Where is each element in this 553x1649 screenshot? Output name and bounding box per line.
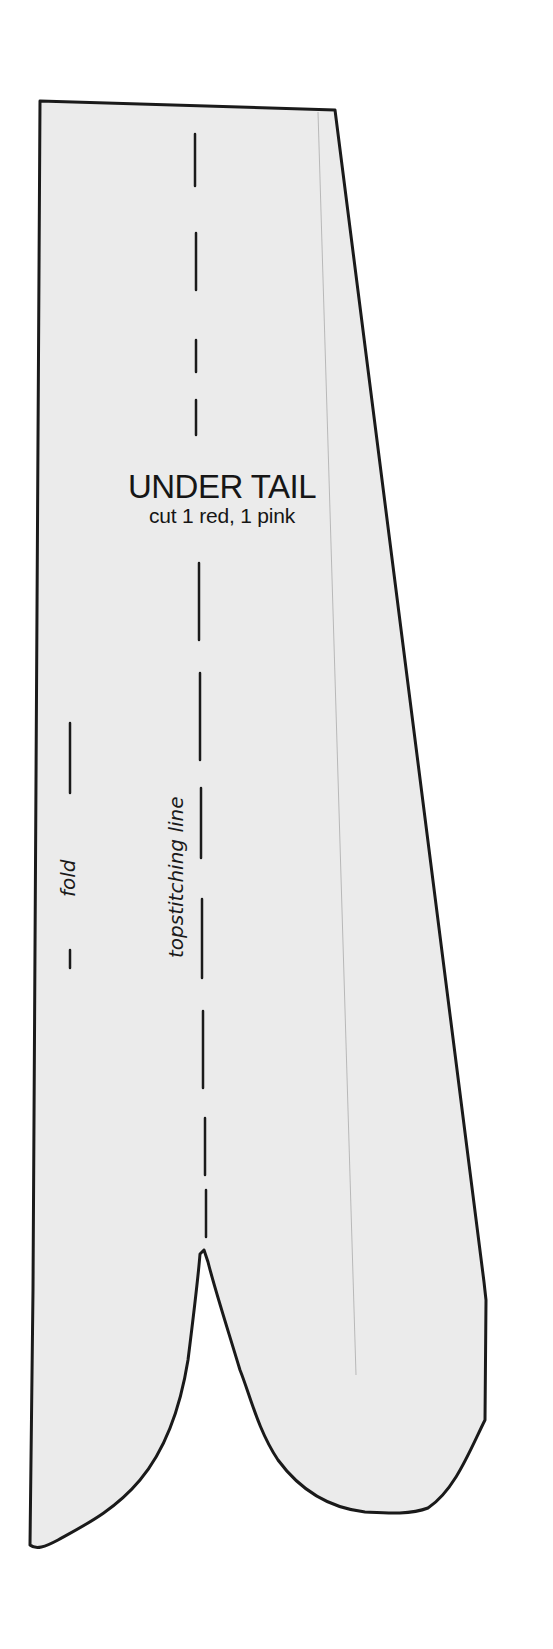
cut-instructions: cut 1 red, 1 pink	[92, 504, 352, 528]
fold-label: fold	[56, 859, 80, 897]
topstitching-label: topstitching line	[164, 797, 188, 958]
piece-title: UNDER TAIL	[92, 470, 352, 504]
pattern-title-block: UNDER TAIL cut 1 red, 1 pink	[92, 470, 352, 528]
piece-outline	[30, 101, 486, 1547]
pattern-piece-drawing	[0, 0, 553, 1649]
